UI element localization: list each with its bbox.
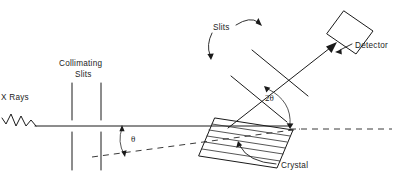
detector-label: Detector [355,41,388,50]
detector-leader-arrowhead [335,49,342,54]
crystal-leader-line [240,146,276,164]
theta-arc-arrowhead-bottom [121,150,126,157]
diffracted-beam-arrowhead [326,42,337,53]
slits-leader-upper-arrowhead [256,18,262,26]
exit-slit-line-2 [252,50,308,96]
theta-angle-label: θ [131,134,135,144]
slits-leader-lower [208,33,212,55]
x-rays-label: X Rays [1,93,29,102]
crystal-plane-2 [209,130,287,142]
slits-label: Slits [213,23,230,32]
detector-leader-line [340,44,352,50]
slits-leader-upper [236,20,258,25]
collimating-slits-label-line2: Slits [75,70,92,79]
xrd-schematic-diagram: X Rays Collimating Slits Slits Detector … [0,0,397,188]
crystal-leader-arrowhead [236,141,242,148]
two-theta-angle-label: 2θ [265,93,274,103]
xray-wave-icon [2,114,36,126]
slits-leader-lower-arrowhead [207,54,213,60]
crystal-label: Crystal [281,161,308,170]
crystal-plane-5 [202,149,280,161]
collimating-slits-label-line1: Collimating [59,59,102,68]
crystal-plane-3 [207,136,285,148]
theta-angle-arc [120,128,124,154]
exit-slit-line-1 [231,76,287,122]
